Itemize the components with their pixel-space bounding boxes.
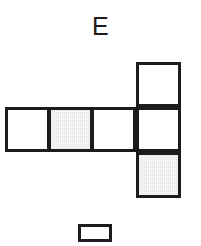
net-cell-row-right [91,107,136,152]
cube-net-diagram [0,0,201,246]
legend-blank-swatch [78,224,112,242]
net-cell-column-middle [136,107,181,152]
net-cell-column-bottom [136,152,181,198]
net-cell-column-top [136,62,181,107]
net-cell-row-left [5,107,50,152]
figure-root: E [0,0,201,246]
net-cell-row-middle [48,107,93,152]
